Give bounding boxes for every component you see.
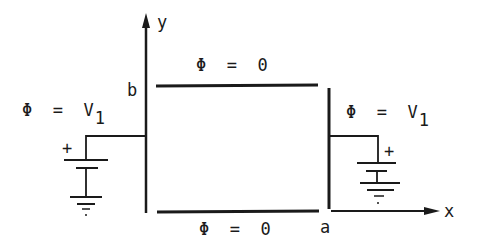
top-potential-label: Φ = 0 — [196, 55, 268, 75]
bottom-potential-label: Φ = 0 — [199, 219, 271, 239]
left-potential-label: Φ = V1 — [22, 100, 105, 128]
right-potential-subscript: 1 — [419, 110, 429, 130]
left-potential-main: Φ = V — [22, 100, 94, 120]
right-battery-plus-label: + — [384, 141, 394, 161]
left-ground-dot — [85, 214, 87, 216]
left-battery-plus-label: + — [62, 138, 72, 158]
left-battery-wire — [86, 136, 146, 160]
top-plate — [156, 85, 318, 86]
x-corner-label-a: a — [320, 217, 330, 237]
right-potential-label: Φ = V1 — [346, 102, 429, 130]
y-axis-label: y — [157, 12, 167, 32]
x-axis-label: x — [444, 201, 454, 221]
right-battery-wire — [329, 136, 378, 163]
boundary-value-diagram: y b x a Φ = 0 Φ = 0 Φ = V1 + Φ = V1 — [0, 0, 478, 248]
right-potential-main: Φ = V — [346, 102, 418, 122]
right-ground-dot — [377, 202, 379, 204]
bottom-plate — [157, 211, 319, 212]
left-potential-subscript: 1 — [95, 108, 105, 128]
x-axis-arrow-icon — [424, 207, 440, 215]
right-battery: + — [329, 136, 400, 204]
y-axis-arrow-icon — [142, 13, 150, 28]
y-corner-label-b: b — [127, 80, 137, 100]
left-battery: + — [62, 136, 146, 216]
